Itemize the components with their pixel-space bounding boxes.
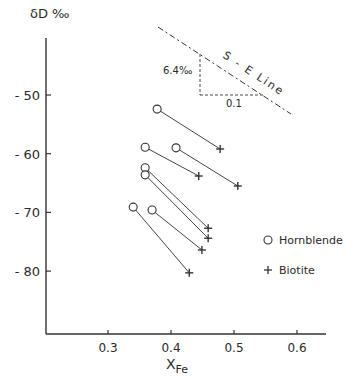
x-tick-label: 0.4 [161,341,180,355]
legend-plus-icon [264,266,272,274]
biotite-point [234,182,242,190]
y-tick-label: - 70 [15,205,40,220]
y-tick-label: - 80 [15,264,40,279]
tie-line [152,210,202,250]
legend-biotite: Biotite [279,264,315,277]
tie-line [176,148,238,186]
hornblende-point [153,105,161,113]
legend-circle-icon [264,236,272,244]
biotite-point [195,172,203,180]
hornblende-point [141,143,149,151]
legend-hornblende: Hornblende [279,234,343,247]
y-tick-label: - 60 [15,147,40,162]
slope-run-label: 0.1 [226,98,242,109]
y-tick-label: - 50 [15,88,40,103]
x-tick-label: 0.5 [224,341,243,355]
se-line-label: S - E Line [220,49,287,99]
x-axis-label: XFe [166,356,188,376]
hornblende-point [148,206,156,214]
y-axis-label: δD ‰ [30,6,70,21]
hornblende-point [141,171,149,179]
data-points [129,105,242,277]
x-tick-label: 0.6 [287,341,306,355]
tie-line [157,109,220,149]
biotite-point [216,145,224,153]
slope-rise-label: 6.4‰ [163,65,192,76]
hornblende-point [129,203,137,211]
legend: Hornblende Biotite [264,234,343,277]
x-tick-label: 0.3 [98,341,117,355]
hornblende-point [172,144,180,152]
scatter-chart: - 50- 60- 70- 80 0.30.40.50.6 δD ‰ XFe S… [0,0,364,383]
tie-lines [133,109,238,273]
tie-line [145,147,199,176]
